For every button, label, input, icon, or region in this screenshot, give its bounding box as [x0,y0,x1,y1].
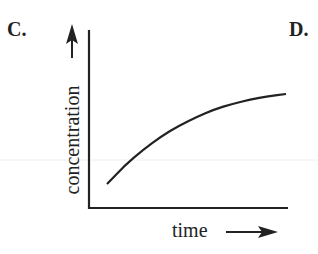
x-axis-label: time [172,219,208,242]
y-axis-arrow-icon [66,24,78,58]
chart-canvas [0,0,318,254]
y-axis-label: concentration [61,86,84,195]
concentration-curve [107,94,286,184]
x-axis-arrow-icon [226,226,278,238]
